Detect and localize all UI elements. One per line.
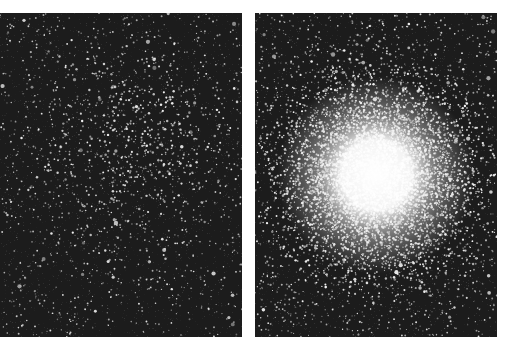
star-field-left [0,13,242,337]
star-field-right [255,13,497,337]
star-cluster-photo-sparse [0,13,242,337]
star-cluster-photo-globular [255,13,497,337]
